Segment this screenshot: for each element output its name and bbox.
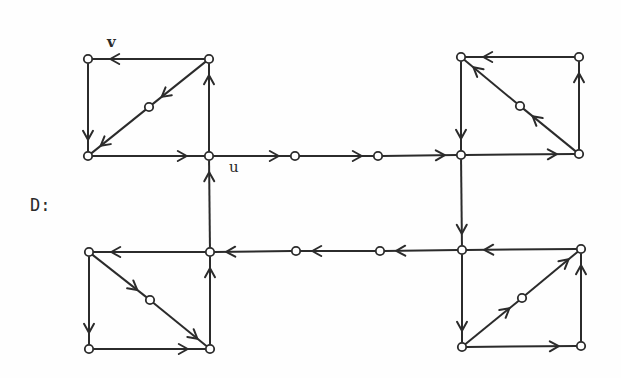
vertex-d3 [85, 345, 93, 353]
edge-c3-c5 [465, 301, 518, 345]
vertex-a3 [145, 103, 153, 111]
vertex-d5 [146, 296, 154, 304]
vertex-c4 [577, 342, 585, 350]
edge-b3-b4 [465, 154, 575, 155]
vertex-c2 [577, 245, 585, 253]
edge-d1-d5 [92, 255, 146, 298]
vertex-b5 [516, 102, 524, 110]
edge-a3-a4 [91, 110, 145, 154]
digraph-canvas: D: v u [0, 0, 621, 378]
edge-layer [88, 57, 581, 349]
vertex-d2 [206, 248, 214, 256]
vertex-c3 [458, 343, 466, 351]
vertex-m4 [292, 247, 300, 255]
vertex-c5 [518, 294, 526, 302]
vertex-label-v: v [106, 33, 117, 51]
edge-b5-b1 [464, 60, 517, 104]
vertex-a4 [84, 152, 92, 160]
vertex-b4 [575, 150, 583, 158]
vertex-m3 [376, 247, 384, 255]
edge-a2-a3 [152, 62, 205, 105]
vertex-d1 [85, 248, 93, 256]
edge-c2-c1 [466, 249, 577, 250]
vertex-m1 [291, 152, 299, 160]
vertex-c1 [458, 246, 466, 254]
vertex-b2 [575, 53, 583, 61]
edge-c3-c4 [466, 346, 577, 347]
vertex-b1 [457, 53, 465, 61]
vertex-b3 [457, 151, 465, 159]
vertex-label-u: u [229, 158, 239, 176]
edge-c5-c2 [525, 252, 578, 296]
vertex-a2 [205, 55, 213, 63]
vertex-u [205, 152, 213, 160]
vertex-d4 [206, 345, 214, 353]
graph-name-label: D: [30, 195, 50, 215]
vertex-a1 [84, 55, 92, 63]
edge-b4-b5 [523, 109, 575, 152]
vertex-m2 [374, 152, 382, 160]
edge-d5-d4 [153, 303, 206, 347]
